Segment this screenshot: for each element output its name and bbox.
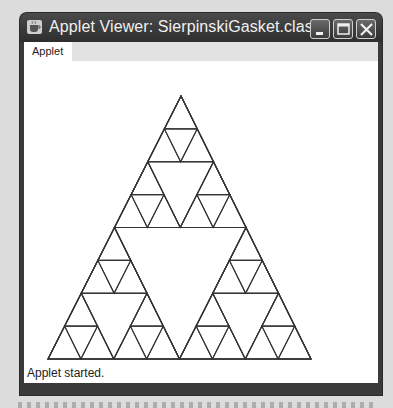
status-text: Applet started. <box>27 366 104 380</box>
menu-bar: Applet <box>24 42 378 61</box>
java-cup-icon <box>26 19 43 35</box>
close-button[interactable] <box>356 19 376 39</box>
minimize-button[interactable] <box>310 19 330 39</box>
menu-applet[interactable]: Applet <box>24 42 72 61</box>
applet-canvas: Applet started. <box>24 61 378 383</box>
cut-off-caption <box>18 402 378 408</box>
title-bar[interactable]: Applet Viewer: SierpinskiGasket.class <box>20 13 382 42</box>
maximize-button[interactable] <box>333 19 353 39</box>
sierpinski-gasket <box>24 61 378 361</box>
close-icon <box>357 20 377 40</box>
maximize-icon <box>334 20 354 40</box>
minimize-icon <box>311 20 331 40</box>
applet-viewer-window: Applet Viewer: SierpinskiGasket.class Ap… <box>20 13 382 395</box>
window-title: Applet Viewer: SierpinskiGasket.class <box>49 18 321 36</box>
